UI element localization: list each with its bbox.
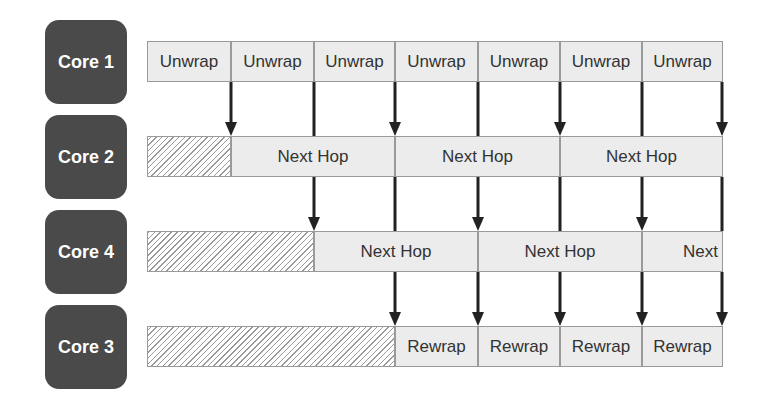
arrowhead-icon: [308, 217, 320, 231]
arrowhead-icon: [225, 122, 237, 136]
arrowhead-icon: [636, 217, 648, 231]
arrowhead-icon: [389, 122, 401, 136]
arrowhead-icon: [636, 312, 648, 326]
arrowhead-icon: [472, 217, 484, 231]
arrowhead-icon: [389, 312, 401, 326]
arrowhead-icon: [554, 122, 566, 136]
arrowhead-icon: [716, 312, 728, 326]
arrow-layer: [0, 0, 757, 405]
arrowhead-icon: [716, 122, 728, 136]
arrowhead-icon: [554, 312, 566, 326]
arrowhead-icon: [472, 312, 484, 326]
